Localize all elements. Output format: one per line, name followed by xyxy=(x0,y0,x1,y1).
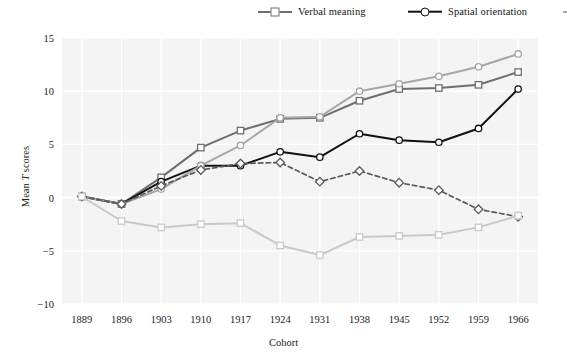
data-point-marker xyxy=(436,73,442,79)
data-point-marker xyxy=(515,51,521,57)
series-inductive-reasoning xyxy=(79,51,522,207)
data-point-marker xyxy=(515,69,521,75)
y-axis-tick-label: −10 xyxy=(20,299,54,310)
x-axis-tick-label: 1966 xyxy=(496,314,540,325)
data-point-marker xyxy=(436,85,442,91)
chart-figure: Verbal meaning Spatial orientation Induc… xyxy=(0,0,567,362)
data-point-marker xyxy=(475,64,481,70)
x-axis-tick-label: 1889 xyxy=(60,314,104,325)
data-point-marker xyxy=(237,142,243,148)
data-point-marker xyxy=(395,178,404,187)
x-axis-tick-label: 1896 xyxy=(100,314,144,325)
y-axis-tick-label: 15 xyxy=(20,33,54,44)
data-point-marker xyxy=(515,86,521,92)
y-axis-title-suffix: scores xyxy=(20,146,31,175)
data-point-marker xyxy=(436,232,442,238)
data-point-marker xyxy=(396,137,402,143)
y-axis-tick-label: 10 xyxy=(20,86,54,97)
data-point-marker xyxy=(316,177,325,186)
data-point-marker xyxy=(277,242,283,248)
data-point-marker xyxy=(277,149,283,155)
data-point-marker xyxy=(475,224,481,230)
data-point-marker xyxy=(277,115,283,121)
data-point-marker xyxy=(317,252,323,258)
x-axis-tick-label: 1959 xyxy=(457,314,501,325)
data-point-marker xyxy=(237,220,243,226)
chart-canvas xyxy=(0,0,567,362)
data-point-marker xyxy=(118,218,124,224)
data-point-marker xyxy=(435,186,444,195)
x-axis-tick-label: 1952 xyxy=(417,314,461,325)
gridlines xyxy=(62,38,538,304)
data-point-marker xyxy=(317,154,323,160)
x-axis-title: Cohort xyxy=(0,337,567,348)
x-axis-tick-label: 1903 xyxy=(139,314,183,325)
series-lines xyxy=(78,51,523,258)
x-axis-tick-label: 1945 xyxy=(377,314,421,325)
data-point-marker xyxy=(158,224,164,230)
data-point-marker xyxy=(396,233,402,239)
y-axis-title: Mean T scores xyxy=(20,122,31,232)
data-point-marker xyxy=(474,205,483,214)
data-point-marker xyxy=(475,82,481,88)
x-axis-tick-label: 1917 xyxy=(219,314,263,325)
x-axis-tick-label: 1938 xyxy=(338,314,382,325)
data-point-marker xyxy=(356,234,362,240)
y-axis-title-prefix: Mean xyxy=(20,181,31,208)
data-point-marker xyxy=(276,158,285,167)
data-point-marker xyxy=(198,144,204,150)
data-point-marker xyxy=(356,131,362,137)
data-point-marker xyxy=(79,193,85,199)
x-axis-tick-label: 1924 xyxy=(258,314,302,325)
y-axis-title-italic: T xyxy=(20,175,31,181)
data-point-marker xyxy=(475,125,481,131)
data-point-marker xyxy=(237,127,243,133)
data-point-marker xyxy=(355,167,364,176)
data-point-marker xyxy=(515,212,521,218)
data-point-marker xyxy=(198,221,204,227)
data-point-marker xyxy=(317,114,323,120)
series-word-fluency xyxy=(79,193,522,258)
series-line xyxy=(82,197,518,256)
data-point-marker xyxy=(356,98,362,104)
series-verbal-meaning xyxy=(79,69,522,207)
y-axis-tick-label: −5 xyxy=(20,245,54,256)
series-line xyxy=(82,54,518,204)
x-axis-tick-label: 1910 xyxy=(179,314,223,325)
data-point-marker xyxy=(396,81,402,87)
x-axis-tick-label: 1931 xyxy=(298,314,342,325)
data-point-marker xyxy=(356,88,362,94)
data-point-marker xyxy=(436,139,442,145)
